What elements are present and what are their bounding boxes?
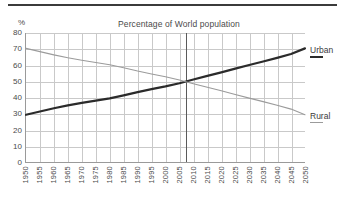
y-tick-label: 60: [13, 62, 22, 70]
x-tick-label: 2025: [232, 166, 240, 184]
series-lines: [26, 33, 305, 163]
x-tick-label: 1995: [148, 166, 156, 184]
x-tick-label: 2035: [260, 166, 268, 184]
y-tick-label: 20: [13, 127, 22, 135]
x-tick-label: 2030: [246, 166, 254, 184]
x-tick-label: 1960: [50, 166, 58, 184]
x-tick-label: 1970: [78, 166, 86, 184]
x-tick-label: 1955: [36, 166, 44, 184]
legend-swatch-urban: [310, 56, 323, 58]
x-tick-label: 1965: [64, 166, 72, 184]
x-tick-label: 1950: [22, 166, 30, 184]
plot-area: 01020304050607080 1950195519601965197019…: [25, 33, 305, 163]
x-tick-label: 2015: [204, 166, 212, 184]
y-tick-label: 30: [13, 110, 22, 118]
x-tick-label: 2000: [162, 166, 170, 184]
y-tick-label: 50: [13, 78, 22, 86]
y-tick-label: 40: [13, 94, 22, 102]
top-divider-rule: [8, 4, 337, 6]
y-tick-label: 80: [13, 29, 22, 37]
x-tick-label: 1975: [92, 166, 100, 184]
chart-figure: % Percentage of World population 0102030…: [0, 0, 344, 207]
x-tick-label: 2005: [176, 166, 184, 184]
legend-label-rural: Rural: [310, 112, 330, 121]
x-tick-label: 2010: [190, 166, 198, 184]
legend-item-rural: Rural: [310, 112, 330, 123]
y-tick-label: 10: [13, 143, 22, 151]
legend-item-urban: Urban: [310, 46, 333, 58]
x-tick-label: 1985: [120, 166, 128, 184]
x-tick-label: 2040: [274, 166, 282, 184]
legend-label-urban: Urban: [310, 46, 333, 55]
x-tick-label: 1990: [134, 166, 142, 184]
legend-swatch-rural: [310, 122, 323, 123]
x-tick-label: 1980: [106, 166, 114, 184]
series-line-urban: [26, 48, 305, 114]
x-tick-label: 2020: [218, 166, 226, 184]
y-tick-label: 70: [13, 45, 22, 53]
x-tick-label: 2050: [302, 166, 310, 184]
chart-title: Percentage of World population: [0, 19, 344, 29]
x-tick-label: 2045: [288, 166, 296, 184]
